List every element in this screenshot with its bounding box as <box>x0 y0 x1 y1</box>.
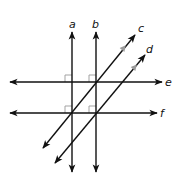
right-angle-mark-a-e <box>65 75 72 82</box>
right-angle-marks <box>65 75 96 113</box>
right-angle-mark-a-f <box>65 106 72 113</box>
parallel-lines-diagram: a b c d e f <box>0 0 179 177</box>
right-angle-mark-b-f <box>89 106 96 113</box>
line-c <box>43 35 135 148</box>
label-d: d <box>146 43 154 56</box>
label-b: b <box>92 18 99 31</box>
label-a: a <box>69 18 76 31</box>
line-d <box>55 55 145 163</box>
label-e: e <box>165 76 172 89</box>
label-c: c <box>138 22 144 35</box>
label-f: f <box>160 107 166 120</box>
right-angle-mark-b-e <box>89 75 96 82</box>
